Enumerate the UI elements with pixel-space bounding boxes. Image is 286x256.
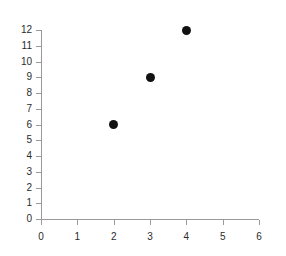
x-axis-tick: [114, 220, 115, 225]
x-axis-tick-label: 5: [213, 232, 233, 242]
y-axis-tick: [36, 30, 41, 31]
y-axis-tick-label: 1: [12, 198, 32, 208]
y-axis-tick: [36, 140, 41, 141]
x-axis-tick: [41, 220, 42, 225]
y-axis-tick-label: 10: [12, 57, 32, 67]
y-axis-tick: [36, 188, 41, 189]
x-axis-tick: [186, 220, 187, 225]
x-axis-tick: [150, 220, 151, 225]
y-axis-tick: [36, 62, 41, 63]
x-axis-tick-label: 2: [104, 232, 124, 242]
y-axis-tick: [36, 46, 41, 47]
x-axis-tick-label: 4: [176, 232, 196, 242]
data-point: [182, 26, 191, 35]
y-axis-line: [41, 30, 42, 219]
x-axis-tick-label: 0: [31, 232, 51, 242]
x-axis-tick: [77, 220, 78, 225]
y-axis-tick-label: 6: [12, 120, 32, 130]
y-axis-tick-label: 11: [12, 41, 32, 51]
y-axis-tick: [36, 125, 41, 126]
y-axis-tick: [36, 156, 41, 157]
x-axis-tick: [223, 220, 224, 225]
y-axis-tick-label: 0: [12, 214, 32, 224]
x-axis-tick: [259, 220, 260, 225]
y-axis-tick: [36, 77, 41, 78]
y-axis-tick: [36, 203, 41, 204]
data-point: [146, 73, 155, 82]
y-axis-tick: [36, 109, 41, 110]
y-axis-tick-label: 2: [12, 183, 32, 193]
y-axis-tick: [36, 219, 41, 220]
x-axis-tick-label: 1: [67, 232, 87, 242]
scatter-plot-figure: 0123456 0123456789101112: [0, 0, 286, 256]
y-axis-tick-label: 3: [12, 167, 32, 177]
x-axis-tick-label: 3: [140, 232, 160, 242]
data-point: [109, 120, 118, 129]
y-axis-tick-label: 5: [12, 135, 32, 145]
y-axis-tick-label: 12: [12, 25, 32, 35]
y-axis-tick-label: 4: [12, 151, 32, 161]
x-axis-tick-label: 6: [249, 232, 269, 242]
y-axis-tick-label: 8: [12, 88, 32, 98]
y-axis-tick: [36, 172, 41, 173]
y-axis-tick-label: 7: [12, 104, 32, 114]
y-axis-tick: [36, 93, 41, 94]
y-axis-tick-label: 9: [12, 72, 32, 82]
